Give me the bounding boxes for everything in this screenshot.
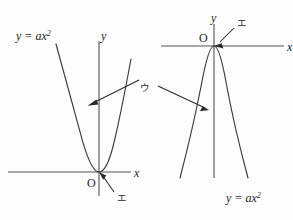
left-origin-label: O bbox=[87, 176, 96, 190]
right-x-axis-label: x bbox=[286, 40, 293, 54]
right-vertex-callout-label: エ bbox=[237, 17, 247, 28]
right-equation-label: y = ax2 bbox=[225, 191, 261, 205]
right-origin-label: O bbox=[199, 31, 208, 45]
left-y-axis-label: y bbox=[100, 29, 107, 43]
left-curve-callout-pointer bbox=[88, 80, 140, 106]
left-x-axis-label: x bbox=[133, 166, 140, 180]
right-diagram-group: y x O エ y = ax2 bbox=[158, 11, 293, 205]
right-curve-callout-pointer bbox=[158, 86, 209, 111]
left-equation-label: y = ax2 bbox=[15, 29, 51, 43]
left-vertex-callout-label: エ bbox=[117, 192, 127, 203]
figure-canvas: y = ax2 y x O エ ウ bbox=[0, 0, 293, 220]
right-vertex-callout-pointer bbox=[214, 28, 234, 48]
parabola-figure: y = ax2 y x O エ ウ bbox=[0, 0, 293, 220]
shared-curve-callout-label: ウ bbox=[140, 82, 150, 93]
left-parabola-curve bbox=[56, 44, 131, 172]
right-y-axis-label: y bbox=[210, 11, 217, 25]
left-vertex-callout-pointer bbox=[99, 172, 114, 192]
left-diagram-group: y = ax2 y x O エ bbox=[8, 29, 140, 203]
